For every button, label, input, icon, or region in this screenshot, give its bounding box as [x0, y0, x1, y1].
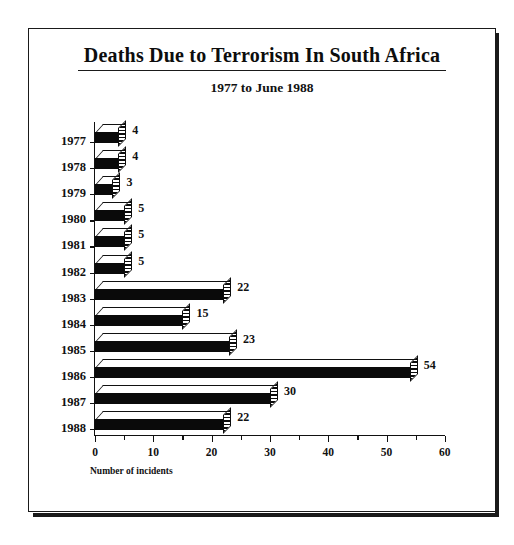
bar-front-face — [95, 236, 124, 247]
y-axis-tick — [90, 429, 94, 430]
y-axis-tick — [90, 299, 94, 300]
bar-value-label: 30 — [284, 384, 296, 399]
bar-value-label: 5 — [138, 201, 144, 216]
y-axis-category-label: 1984 — [26, 317, 86, 332]
bar-front-face — [95, 210, 124, 221]
bar — [95, 255, 132, 275]
bar-value-label: 22 — [237, 410, 249, 425]
bar-front-face — [95, 289, 223, 300]
x-axis-tick-minor — [124, 436, 125, 440]
chart-figure: Deaths Due to Terrorism In South Africa … — [0, 0, 514, 545]
y-axis-category-label: 1977 — [26, 134, 86, 149]
y-axis-tick — [90, 273, 94, 274]
x-axis-tick-major — [445, 436, 446, 442]
bar-front-face — [95, 315, 182, 326]
x-axis-tick-label: 20 — [206, 446, 218, 458]
x-axis-tick-minor — [182, 436, 183, 440]
bar — [95, 176, 120, 196]
y-axis-tick — [90, 377, 94, 378]
bar — [95, 124, 126, 144]
y-axis-tick — [90, 168, 94, 169]
bar-value-label: 5 — [138, 254, 144, 269]
y-axis-category-label: 1978 — [26, 160, 86, 175]
x-axis-tick-label: 30 — [264, 446, 276, 458]
bar-value-label: 22 — [237, 280, 249, 295]
x-axis-tick-minor — [357, 436, 358, 440]
y-axis-tick — [90, 220, 94, 221]
bar-front-face — [95, 184, 112, 195]
x-axis-tick-label: 40 — [322, 446, 334, 458]
x-axis-tick-major — [95, 436, 96, 442]
bar-value-label: 23 — [243, 332, 255, 347]
bar — [95, 281, 231, 301]
y-axis-category-label: 1986 — [26, 369, 86, 384]
bar — [95, 333, 237, 353]
x-axis-tick-major — [328, 436, 329, 442]
x-axis-tick-major — [212, 436, 213, 442]
bar — [95, 202, 132, 222]
bar — [95, 307, 190, 327]
bar-value-label: 15 — [196, 306, 208, 321]
x-axis-tick-minor — [416, 436, 417, 440]
y-axis-category-label: 1985 — [26, 343, 86, 358]
y-axis-category-label: 1982 — [26, 265, 86, 280]
x-axis-tick-minor — [299, 436, 300, 440]
y-axis-category-label: 1988 — [26, 421, 86, 436]
y-axis-tick — [90, 403, 94, 404]
x-axis-tick-label: 10 — [148, 446, 160, 458]
bar-front-face — [95, 419, 223, 430]
bar-value-label: 5 — [138, 227, 144, 242]
y-axis-tick — [90, 325, 94, 326]
y-axis-category-label: 1981 — [26, 238, 86, 253]
y-axis-tick — [90, 246, 94, 247]
x-axis-tick-major — [270, 436, 271, 442]
x-axis-tick-minor — [241, 436, 242, 440]
x-axis-tick-label: 60 — [439, 446, 451, 458]
x-axis-tick-label: 0 — [92, 446, 98, 458]
bar — [95, 150, 126, 170]
y-axis-category-label: 1983 — [26, 291, 86, 306]
x-axis-tick-major — [153, 436, 154, 442]
bar — [95, 359, 418, 379]
y-axis-tick — [90, 351, 94, 352]
plot-area: 0102030405060419774197831979519805198151… — [0, 0, 514, 545]
x-axis-tick-label: 50 — [381, 446, 393, 458]
bar-value-label: 4 — [132, 149, 138, 164]
bar-front-face — [95, 132, 118, 143]
y-axis-category-label: 1979 — [26, 186, 86, 201]
y-axis-tick — [90, 194, 94, 195]
bar-front-face — [95, 341, 229, 352]
bar-front-face — [95, 158, 118, 169]
bar — [95, 411, 231, 431]
bar-front-face — [95, 393, 270, 404]
x-axis-tick-major — [387, 436, 388, 442]
bar-value-label: 4 — [132, 123, 138, 138]
bar-value-label: 54 — [424, 358, 436, 373]
y-axis-category-label: 1987 — [26, 395, 86, 410]
y-axis-tick — [90, 142, 94, 143]
bar — [95, 228, 132, 248]
bar-front-face — [95, 367, 410, 378]
bar — [95, 385, 278, 405]
y-axis-category-label: 1980 — [26, 212, 86, 227]
bar-value-label: 3 — [126, 175, 132, 190]
x-axis-label: Number of incidents — [90, 466, 173, 476]
bar-front-face — [95, 263, 124, 274]
